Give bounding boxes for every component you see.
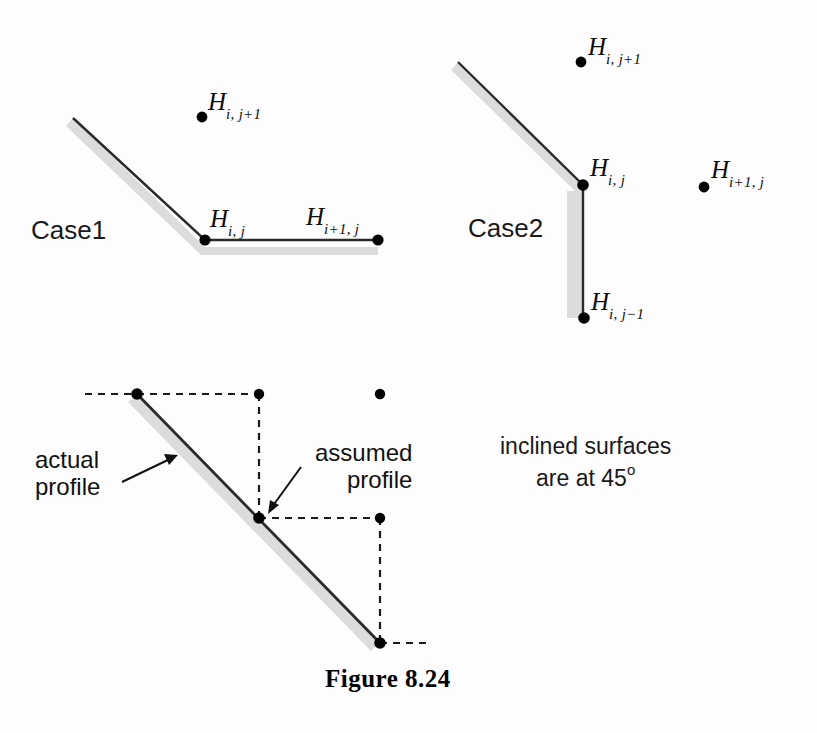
h-symbol: H: [210, 205, 228, 232]
inclined-surfaces-note-line2: are at 45o: [500, 462, 671, 494]
grid-node-middle-right: [375, 513, 385, 523]
h-symbol: H: [711, 156, 729, 183]
case2-surface-shadow: [451, 62, 583, 318]
h-subscript: i, j+1: [226, 106, 261, 122]
case1-node-h-i-j: [199, 234, 210, 245]
assumed-profile-callout-line1: assumed: [315, 440, 412, 467]
actual-profile-callout-line1: actual: [35, 447, 100, 474]
profile-node-bottom-right: [374, 637, 386, 649]
case2-label: Case2: [468, 213, 543, 244]
h-subscript: i+1, j: [324, 221, 359, 237]
case2-node-h-i-j-minus-1: [578, 312, 590, 324]
h-subscript: i+1, j: [729, 174, 764, 190]
case1-node-h-i-plus-1-j: [372, 234, 383, 245]
inclined-surfaces-note-line1: inclined surfaces: [500, 432, 671, 462]
case1-node-label-h-i-j-plus-1: Hi, j+1: [208, 88, 261, 120]
actual-profile-shadow: [128, 394, 380, 651]
inclined-surfaces-note-angle: are at 45: [536, 465, 627, 491]
case2-node-h-i-plus-1-j: [699, 182, 710, 193]
h-symbol: H: [208, 88, 226, 115]
actual-profile-leader-line: [122, 458, 172, 482]
h-subscript: i, j: [608, 172, 625, 188]
case1-label: Case1: [31, 215, 106, 246]
assumed-profile-callout: assumed profile: [315, 440, 412, 494]
case2-node-h-i-j-plus-1: [576, 57, 587, 68]
assumed-profile-leader-line: [272, 467, 301, 507]
figure-vector-graphics: [0, 0, 817, 733]
case1-node-h-i-j-plus-1: [197, 112, 208, 123]
assumed-profile-leader: [268, 467, 301, 514]
h-symbol: H: [591, 288, 609, 315]
case1-node-label-h-i-j: Hi, j: [210, 205, 245, 237]
case2-node-label-h-i-j: Hi, j: [590, 154, 625, 186]
case1-node-label-h-i-plus-1-j: Hi+1, j: [306, 203, 359, 235]
case2-profile-line: [458, 62, 583, 318]
profile-node-top-left: [131, 388, 143, 400]
case2-node-label-h-i-j-plus-1: Hi, j+1: [588, 33, 641, 65]
case2-vertical-shadow: [567, 191, 575, 318]
assumed-profile-callout-line2: profile: [315, 467, 412, 494]
grid-node-upper-middle: [254, 389, 264, 399]
profile-diagram-geometry: [85, 388, 432, 651]
h-symbol: H: [590, 154, 608, 181]
h-subscript: i, j−1: [609, 306, 644, 322]
inclined-surfaces-note: inclined surfaces are at 45o: [500, 432, 671, 493]
profile-node-middle: [253, 512, 265, 524]
h-subscript: i, j+1: [606, 51, 641, 67]
case2-node-label-h-i-j-minus-1: Hi, j−1: [591, 288, 644, 320]
grid-node-upper-right: [375, 389, 385, 399]
degree-symbol-icon: o: [627, 461, 635, 478]
case2-node-h-i-j: [577, 179, 589, 191]
case2-node-label-h-i-plus-1-j: Hi+1, j: [711, 156, 764, 188]
actual-profile-leader: [122, 454, 178, 482]
figure-caption: Figure 8.24: [325, 665, 451, 693]
case2-geometry: [451, 57, 709, 324]
assumed-profile-arrowhead-icon: [268, 500, 279, 514]
actual-profile-callout-line2: profile: [35, 474, 100, 501]
actual-profile-callout: actual profile: [35, 447, 100, 501]
h-symbol: H: [306, 203, 324, 230]
figure-8-24: Case1 Hi, j+1 Hi, j Hi+1, j Case2 Hi, j+…: [0, 0, 817, 733]
h-subscript: i, j: [228, 223, 245, 239]
actual-profile-arrowhead-icon: [164, 454, 178, 465]
h-symbol: H: [588, 33, 606, 60]
